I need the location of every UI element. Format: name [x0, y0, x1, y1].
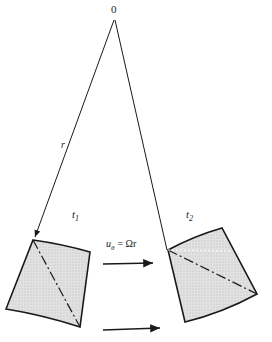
velocity-label: uθ= Ωr	[106, 238, 137, 252]
radius-line-t2	[115, 20, 167, 250]
fluid-element-t1	[6, 240, 90, 327]
time2-label: t2	[186, 208, 193, 223]
rotation-diagram: 0 r t1 t2 uθ= Ωr	[0, 0, 272, 342]
radius-line-t1	[35, 20, 114, 237]
radius-label: r	[61, 139, 65, 150]
velocity-arrow-bottom	[103, 328, 160, 330]
origin-label: 0	[111, 3, 117, 15]
fluid-element-t2	[168, 228, 257, 322]
velocity-arrow-top	[103, 263, 153, 264]
time1-label: t1	[72, 208, 79, 223]
